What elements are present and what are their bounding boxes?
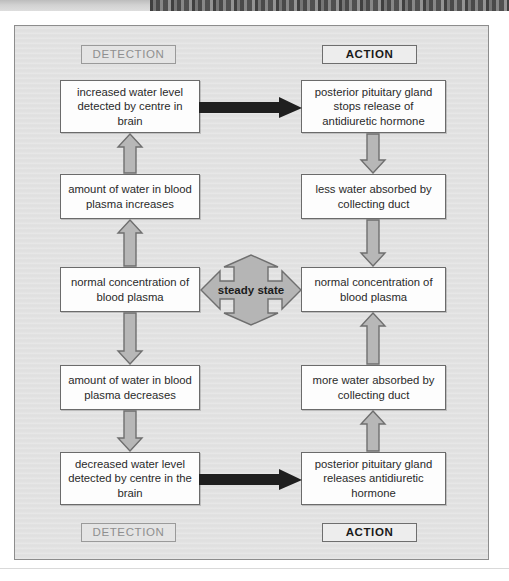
arrow-right-up-2 — [359, 410, 387, 452]
scan-artifact-right — [150, 0, 509, 11]
process-box-left-3: normal concentration of blood plasma — [60, 267, 200, 312]
header-label-detection-top: DETECTION — [81, 45, 176, 64]
diagram-canvas: DETECTION ACTION increased water level d… — [0, 0, 509, 581]
header-label-action-bottom: ACTION — [322, 523, 417, 542]
arrow-right-down-1 — [359, 133, 387, 174]
arrow-left-up-1 — [116, 133, 144, 174]
process-box-left-4: amount of water in blood plasma decrease… — [60, 365, 200, 410]
page-divider-line — [0, 568, 509, 569]
arrow-black-bottom-right — [199, 469, 303, 491]
diagram-panel: DETECTION ACTION increased water level d… — [14, 25, 489, 560]
arrow-right-down-2 — [359, 219, 387, 267]
process-box-right-5: posterior pituitary gland releases antid… — [301, 452, 446, 505]
header-label-detection-bottom: DETECTION — [81, 523, 176, 542]
process-box-right-1: posterior pituitary gland stops release … — [301, 80, 446, 133]
process-box-right-2: less water absorbed by collecting duct — [301, 174, 446, 219]
header-label-action-top: ACTION — [322, 45, 417, 64]
steady-state-four-way-arrow-icon: steady state — [200, 254, 302, 326]
arrow-black-top-right — [199, 97, 303, 119]
process-box-left-1: increased water level detected by centre… — [60, 80, 200, 133]
arrow-left-down-1 — [116, 312, 144, 365]
process-box-left-5: decreased water level detected by centre… — [60, 452, 200, 505]
arrow-right-up-1 — [359, 312, 387, 365]
process-box-right-3: normal concentration of blood plasma — [301, 267, 446, 312]
arrow-left-up-2 — [116, 219, 144, 267]
process-box-right-4: more water absorbed by collecting duct — [301, 365, 446, 410]
process-box-left-2: amount of water in blood plasma increase… — [60, 174, 200, 219]
arrow-left-down-2 — [116, 410, 144, 452]
scan-artifact-left — [0, 0, 150, 11]
